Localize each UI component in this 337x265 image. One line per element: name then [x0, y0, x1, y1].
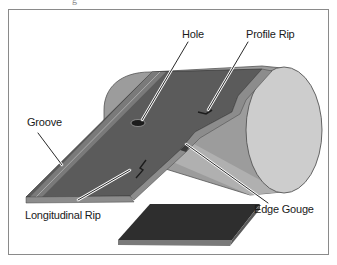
label-edge-gouge: Edge Gouge	[254, 203, 314, 215]
label-profile-rip: Profile Rip	[246, 28, 295, 40]
label-groove: Groove	[27, 116, 62, 128]
label-longitudinal-rip: Longitudinal Rip	[25, 209, 101, 221]
belt-sample-pad	[118, 204, 260, 246]
label-hole: Hole	[182, 28, 204, 40]
